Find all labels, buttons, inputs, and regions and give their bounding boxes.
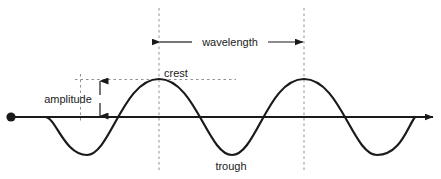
amplitude-label: amplitude — [44, 93, 92, 105]
wavelength-annotation: wavelength — [160, 36, 303, 48]
wavelength-label: wavelength — [201, 36, 258, 48]
trough-annotation: trough — [215, 160, 246, 172]
wave-anatomy-diagram: wavelength amplitude crest trough — [0, 0, 441, 179]
guide-lines — [75, 8, 304, 172]
crest-label: crest — [164, 67, 188, 79]
origin-dot — [6, 112, 15, 121]
crest-annotation: crest — [164, 67, 188, 79]
amplitude-annotation: amplitude — [44, 81, 100, 116]
baseline-axis — [6, 112, 433, 121]
trough-label: trough — [215, 160, 246, 172]
